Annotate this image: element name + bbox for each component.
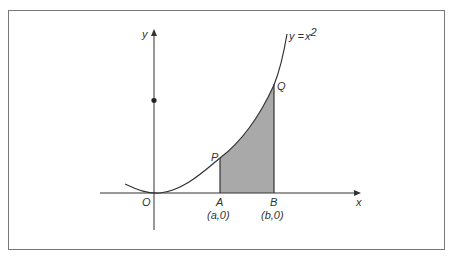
point-A-label: A bbox=[215, 196, 223, 208]
origin-label: O bbox=[142, 196, 151, 208]
y-axis-dot bbox=[151, 98, 156, 103]
x-axis-label: x bbox=[355, 196, 362, 208]
point-Q-label: Q bbox=[277, 80, 286, 92]
point-A-coordinate: (a,0) bbox=[207, 209, 230, 221]
diagram-figure: y x O y =x2 P Q A B (a,0) (b,0) bbox=[0, 0, 453, 259]
point-B-label: B bbox=[270, 196, 277, 208]
point-P-label: P bbox=[211, 151, 219, 163]
point-B-coordinate: (b,0) bbox=[261, 209, 284, 221]
